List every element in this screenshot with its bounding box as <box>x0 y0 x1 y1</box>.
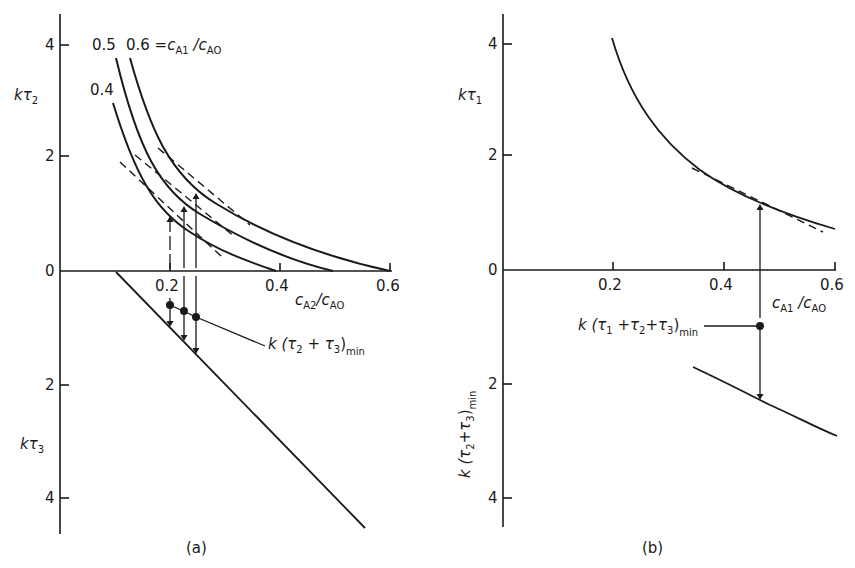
b-ytick-lower-2: 2 <box>488 377 498 392</box>
a-curve-label-0.6: 0.6 =cA1 /cAO <box>126 38 221 56</box>
b-annotation-min: k (τ1 +τ2+τ3)min <box>578 318 698 338</box>
a-ytick-lower-2: 2 <box>45 378 55 393</box>
b-xtick-0.6: 0.6 <box>820 278 844 293</box>
panel-a-curves <box>113 58 390 271</box>
a-curve-label-0.5: 0.5 <box>92 38 116 53</box>
a-xlabel: cA2/cAO <box>295 293 344 311</box>
panel-a-arrows <box>170 195 265 352</box>
curve-0.6 <box>130 58 390 271</box>
a-ytick-lower-4: 4 <box>45 491 55 506</box>
panel-a-min-points <box>166 301 200 321</box>
curve-ktau23-min <box>693 367 837 436</box>
a-xtick-0.6: 0.6 <box>376 279 400 294</box>
panel-b-arrows <box>704 206 760 398</box>
panel-a-caption: (a) <box>186 541 207 556</box>
a-ylabel-ktau2: kτ2 <box>14 88 38 106</box>
panel-b-optimum-point <box>756 322 764 330</box>
b-ytick-lower-4: 4 <box>488 491 498 506</box>
panel-b-axes <box>503 14 836 527</box>
a-ylabel-ktau3: kτ3 <box>20 437 44 455</box>
panel-b-caption: (b) <box>642 541 663 556</box>
a-ytick-0: 0 <box>45 264 55 279</box>
b-ylabel-ktau1: kτ1 <box>458 88 482 106</box>
a-xtick-0.2: 0.2 <box>155 279 179 294</box>
a-ytick-2: 2 <box>45 149 55 164</box>
a-ytick-4: 4 <box>45 38 55 53</box>
b-xtick-0.4: 0.4 <box>709 278 733 293</box>
a-curve-label-0.4: 0.4 <box>90 83 114 98</box>
a-xtick-0.4: 0.4 <box>265 279 289 294</box>
curve-ktau1 <box>612 38 835 229</box>
b-xtick-0.2: 0.2 <box>598 278 622 293</box>
b-ylabel-ktau23-min: k (τ2+τ3)min <box>458 391 478 478</box>
panel-b-curves <box>612 38 837 436</box>
b-xlabel: cA1 /cAO <box>772 296 826 314</box>
curve-0.5 <box>116 58 333 271</box>
figure: 4 2 0 2 4 kτ2 kτ3 0.2 0.4 0.6 cA2/cAO 0.… <box>0 0 855 568</box>
b-ytick-2: 2 <box>488 148 498 163</box>
b-ytick-0: 0 <box>488 263 498 278</box>
b-ytick-4: 4 <box>488 37 498 52</box>
a-annotation-min: k (τ2 + τ3)min <box>268 337 365 357</box>
